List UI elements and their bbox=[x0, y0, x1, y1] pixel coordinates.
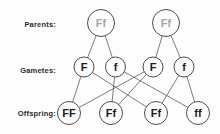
gametes-genotype-G2: f bbox=[114, 61, 118, 73]
cross-diagram-svg: FfFfFfFfFFFfFfff bbox=[0, 0, 220, 134]
parents-genotype-P1: Ff bbox=[96, 17, 107, 29]
gametes-genotype-G4: f bbox=[182, 61, 186, 73]
cross-line-P1-G1 bbox=[88, 36, 97, 58]
cross-line-G4-O4 bbox=[187, 77, 195, 102]
offspring-genotype-O2: Ff bbox=[106, 107, 117, 119]
cross-line-P2-G3 bbox=[156, 36, 162, 57]
gametes-genotype-G1: F bbox=[81, 61, 88, 73]
offspring-genotype-O1: FF bbox=[62, 107, 76, 119]
punnett-cross-diagram: Parents: Gametes: Offspring: FfFfFfFfFFF… bbox=[0, 0, 220, 134]
offspring-genotype-O4: ff bbox=[194, 107, 202, 119]
cross-line-G4-O3 bbox=[162, 76, 179, 104]
cross-line-G1-O1 bbox=[73, 77, 81, 103]
cross-line-G1-O3 bbox=[92, 72, 146, 106]
gametes-genotype-G3: F bbox=[150, 61, 157, 73]
offspring-genotype-O3: Ff bbox=[151, 107, 162, 119]
parents-genotype-P2: Ff bbox=[161, 17, 172, 29]
cross-line-G3-O2 bbox=[119, 74, 147, 104]
cross-line-P2-G4 bbox=[171, 35, 180, 57]
cross-line-P1-G2 bbox=[105, 36, 112, 58]
